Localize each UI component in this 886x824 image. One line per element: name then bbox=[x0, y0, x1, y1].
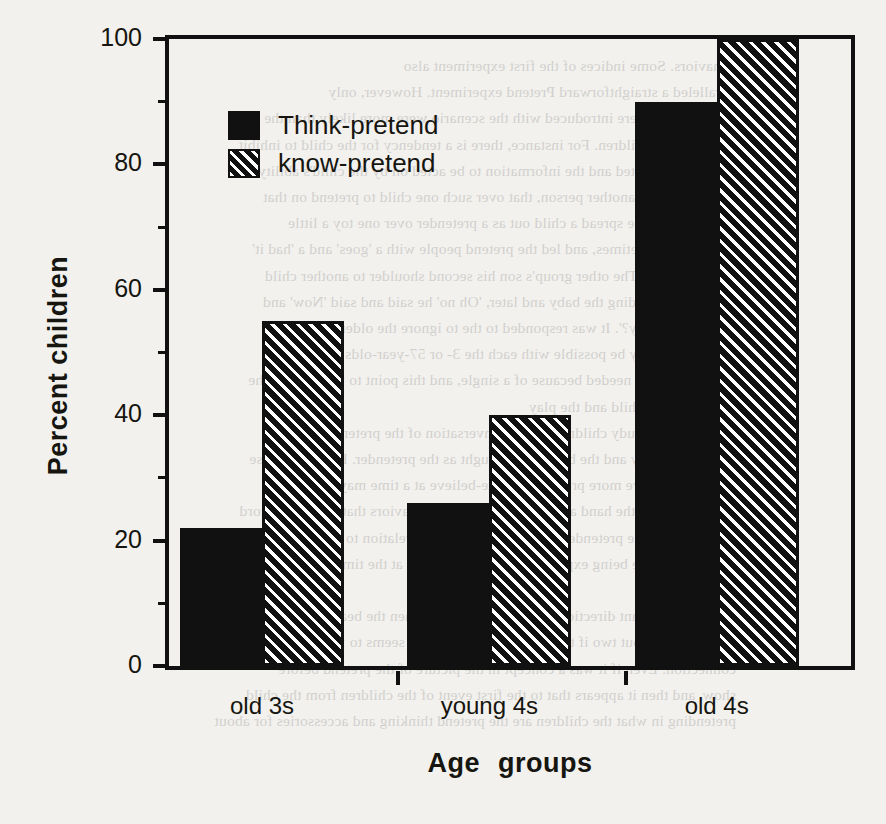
figure-bar-chart: Percent children Age groups 020406080100… bbox=[0, 0, 886, 824]
bar-old-4s-think-pretend bbox=[635, 102, 717, 666]
x-tick-label: old 4s bbox=[685, 692, 749, 720]
bar-old-4s-know-pretend bbox=[717, 39, 799, 666]
x-tick bbox=[396, 671, 400, 685]
bar-old-3s-think-pretend bbox=[180, 528, 262, 666]
chart-legend: Think-pretendknow-pretend bbox=[228, 106, 438, 182]
legend-item: Think-pretend bbox=[228, 106, 438, 144]
legend-item: know-pretend bbox=[228, 144, 438, 182]
legend-label: Think-pretend bbox=[278, 110, 438, 141]
legend-label: know-pretend bbox=[278, 148, 436, 179]
bar-old-3s-know-pretend bbox=[262, 321, 344, 666]
legend-swatch-icon bbox=[228, 111, 260, 140]
bar-young-4s-think-pretend bbox=[407, 503, 489, 666]
bar-young-4s-know-pretend bbox=[489, 415, 571, 666]
legend-swatch-icon bbox=[228, 149, 260, 178]
x-tick bbox=[624, 671, 628, 685]
x-tick-label: young 4s bbox=[441, 692, 538, 720]
x-tick-label: old 3s bbox=[230, 692, 294, 720]
